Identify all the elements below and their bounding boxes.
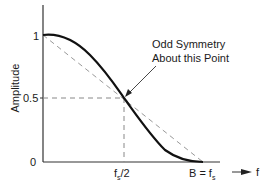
y-tick-label-1: 1 [33, 30, 39, 42]
annotation-text-line2: About this Point [152, 52, 229, 64]
annotation-text-line1: Odd Symmetry [152, 38, 225, 50]
x-tick-label-fs-half: fs/2 [114, 167, 130, 183]
x-tick-label-b: B = fs [189, 167, 215, 183]
y-axis-label: Amplitude [9, 63, 21, 113]
annotation-pointer [128, 66, 156, 94]
f-axis-arrowhead [241, 169, 252, 175]
y-tick-label-0.5: 0.5 [23, 92, 38, 104]
x-tick-fs-half-suffix: /2 [121, 167, 130, 179]
y-tick-label-0: 0 [30, 156, 36, 168]
annotation-arrowhead [125, 89, 132, 97]
x-tick-b-text: B = f [189, 167, 212, 179]
x-axis-label: f [256, 166, 259, 178]
chart-canvas [0, 0, 271, 183]
x-tick-b-sub: s [212, 174, 216, 181]
